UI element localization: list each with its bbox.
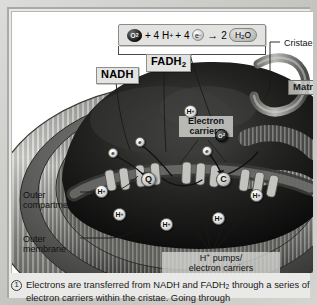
label-outer-membrane: Outer membrane: [23, 234, 103, 254]
equation-arrow-icon: →: [206, 30, 219, 41]
electron-token-2: e: [135, 137, 145, 147]
proton-token-compartment-4: H+: [212, 212, 225, 225]
equation-plus-four-protons: + 4 H+: [145, 30, 173, 41]
label-h-pumps-electron-carriers: H+ pumps/ electron carriers: [162, 252, 280, 273]
electron-token-3: e: [202, 146, 212, 156]
proton-token-matrix-1: H+: [184, 105, 197, 118]
equation-bracket: [118, 46, 266, 55]
caption-line1: Electrons are transferred from NADH and …: [26, 279, 264, 290]
proton-token-compartment-5: H+: [250, 189, 263, 202]
label-outer-compartment-line2: compartment: [23, 200, 76, 210]
carrier-c-token: C: [216, 172, 231, 187]
label-outer-compartment: Outer compartment: [23, 190, 103, 210]
label-cristae: Cristae: [284, 38, 313, 48]
net-reaction-equation: O2 + 4 H+ + 4 e− → 2 H2O: [118, 24, 266, 46]
equation-h-charge: +: [169, 31, 173, 40]
figure-caption: 1 Electrons are transferred from NADH an…: [11, 279, 311, 304]
label-fadh2-text: FADH: [151, 55, 182, 67]
oxygen-molecule-icon: O2: [127, 29, 142, 42]
label-outer-membrane-line2: membrane: [23, 244, 66, 254]
label-outer-compartment-line1: Outer: [23, 190, 46, 200]
carrier-q-token: Q: [141, 172, 156, 187]
equation-plus-four-electrons: + 4 e−: [175, 29, 204, 41]
caption-step-number: 1: [11, 280, 22, 291]
caption-text: Electrons are transferred from NADH and …: [26, 279, 311, 304]
label-fadh2: FADH2: [146, 54, 191, 72]
electron-icon: e−: [192, 29, 204, 41]
proton-token-compartment-1: H+: [95, 185, 108, 198]
oxygen-token-matrix: O2: [215, 129, 228, 142]
mitochondrion-figure-panel: O2 + 4 H+ + 4 e− → 2 H2O NADH FADH2 Matr…: [11, 11, 313, 273]
water-molecule-icon: H2O: [229, 28, 257, 42]
proton-token-compartment-2: H+: [113, 208, 126, 221]
equation-coefficient-4e: + 4: [175, 30, 189, 41]
label-electron-carriers-line1: Electron: [188, 116, 224, 126]
equation-water-coefficient: 2: [221, 30, 227, 41]
label-matrix: Matrix: [288, 80, 313, 95]
label-nadh: NADH: [96, 67, 139, 84]
electron-token-1: e: [108, 148, 118, 158]
equation-h-symbol: H: [162, 30, 169, 41]
label-outer-membrane-line1: Outer: [23, 234, 46, 244]
proton-token-compartment-3: H+: [160, 218, 173, 231]
label-h-pumps-line2: electron carriers: [189, 263, 254, 273]
label-h-pumps-line1: H+ pumps/: [200, 253, 242, 263]
equation-coefficient-4h: + 4: [145, 30, 159, 41]
figure-page: O2 + 4 H+ + 4 e− → 2 H2O NADH FADH2 Matr…: [0, 0, 317, 305]
label-fadh2-subscript: 2: [182, 60, 187, 69]
